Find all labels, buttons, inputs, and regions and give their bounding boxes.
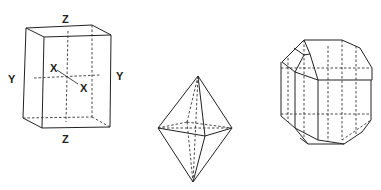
x-axis-label-back: X	[50, 63, 57, 74]
y-axis-label-right: Y	[116, 71, 123, 82]
x-axis-label-front: X	[80, 83, 87, 94]
z-axis-label-bottom: Z	[62, 134, 69, 145]
modified-prism	[281, 40, 372, 144]
z-axis-label-top: Z	[62, 14, 69, 25]
octahedron	[158, 76, 232, 182]
rectangular-prism	[23, 25, 111, 128]
crystal-drawings	[0, 0, 381, 190]
y-axis-label-left: Y	[8, 74, 15, 85]
